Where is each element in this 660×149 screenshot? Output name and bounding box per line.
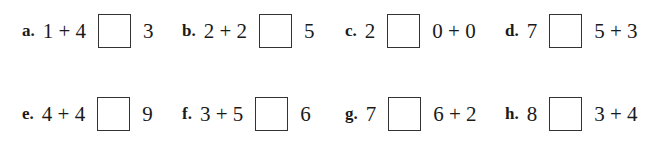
right-expression: 6 xyxy=(300,102,311,127)
problem-label: d. xyxy=(505,21,519,41)
left-expression: 2 xyxy=(365,19,376,44)
left-expression: 7 xyxy=(366,102,377,127)
problem-label: c. xyxy=(345,21,357,41)
problem-label: b. xyxy=(182,21,196,41)
right-expression: 3 xyxy=(143,19,154,44)
right-expression: 3 + 4 xyxy=(594,102,637,127)
problem-label: g. xyxy=(345,104,358,124)
left-expression: 4 + 4 xyxy=(42,102,85,127)
right-expression: 9 xyxy=(142,102,153,127)
right-expression: 5 + 3 xyxy=(594,19,637,44)
answer-box[interactable] xyxy=(388,97,421,131)
problem-c: c. 2 0 + 0 xyxy=(345,13,476,49)
left-expression: 8 xyxy=(527,102,538,127)
right-expression: 6 + 2 xyxy=(433,102,476,127)
left-expression: 1 + 4 xyxy=(43,19,86,44)
problem-label: a. xyxy=(22,21,35,41)
answer-box[interactable] xyxy=(387,14,420,48)
problem-d: d. 7 5 + 3 xyxy=(505,13,638,49)
answer-box[interactable] xyxy=(255,97,288,131)
left-expression: 7 xyxy=(527,19,538,44)
answer-box[interactable] xyxy=(549,14,582,48)
problem-f: f. 3 + 5 6 xyxy=(182,96,311,132)
right-expression: 5 xyxy=(304,19,315,44)
left-expression: 3 + 5 xyxy=(200,102,243,127)
problem-h: h. 8 3 + 4 xyxy=(505,96,638,132)
problem-b: b. 2 + 2 5 xyxy=(182,13,315,49)
answer-box[interactable] xyxy=(259,14,292,48)
problem-e: e. 4 + 4 9 xyxy=(22,96,153,132)
left-expression: 2 + 2 xyxy=(204,19,247,44)
problem-g: g. 7 6 + 2 xyxy=(345,96,477,132)
answer-box[interactable] xyxy=(549,97,582,131)
problem-label: f. xyxy=(182,104,192,124)
answer-box[interactable] xyxy=(98,14,131,48)
problem-label: e. xyxy=(22,104,34,124)
answer-box[interactable] xyxy=(97,97,130,131)
problem-a: a. 1 + 4 3 xyxy=(22,13,154,49)
right-expression: 0 + 0 xyxy=(432,19,475,44)
problem-label: h. xyxy=(505,104,519,124)
